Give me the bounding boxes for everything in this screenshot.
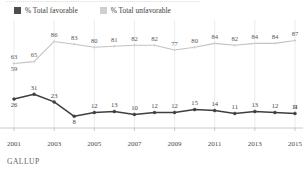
legend-item-favorable[interactable]: % Total favorable xyxy=(14,7,78,14)
data-label: 86 xyxy=(51,31,58,38)
data-label: 15 xyxy=(191,99,198,106)
data-label: 31 xyxy=(31,84,38,91)
data-point[interactable] xyxy=(173,49,175,51)
data-point[interactable] xyxy=(73,43,75,45)
x-axis-tick-label: 2007 xyxy=(127,140,141,148)
data-label: 12 xyxy=(151,102,158,109)
data-label-extra: 59 xyxy=(11,65,18,72)
data-label: 12 xyxy=(91,102,98,109)
x-axis-tick-label: 2005 xyxy=(87,140,101,148)
data-label: 84 xyxy=(211,33,218,40)
data-label: 84 xyxy=(272,33,279,40)
legend-item-unfavorable[interactable]: % Total unfavorable xyxy=(100,7,171,14)
data-label: 13 xyxy=(111,101,118,108)
chart-legend: % Total favorable % Total unfavorable xyxy=(14,7,171,14)
data-label-extra: 26 xyxy=(11,101,18,108)
legend-label-unfavorable: % Total unfavorable xyxy=(111,7,171,14)
data-point[interactable] xyxy=(153,44,155,46)
data-label: 80 xyxy=(91,37,98,44)
data-point[interactable] xyxy=(253,110,256,113)
data-label: 82 xyxy=(151,35,158,42)
data-point[interactable] xyxy=(133,44,135,46)
data-label: 13 xyxy=(252,101,259,108)
data-label: 63 xyxy=(11,53,18,60)
data-point[interactable] xyxy=(273,111,276,114)
x-axis-tick-label: 2011 xyxy=(208,140,222,148)
data-point[interactable] xyxy=(133,113,136,116)
data-label: 11 xyxy=(232,103,238,110)
x-axis-tick-label: 2003 xyxy=(47,140,61,148)
data-label: 10 xyxy=(131,104,138,111)
source-attribution: GALLUP xyxy=(7,157,40,166)
data-label: 81 xyxy=(111,36,118,43)
x-axis-tick-label: 2009 xyxy=(168,140,182,148)
data-label: 23 xyxy=(51,92,58,99)
data-label: 14 xyxy=(211,100,218,107)
data-point[interactable] xyxy=(214,42,216,44)
data-point[interactable] xyxy=(193,108,196,111)
data-point[interactable] xyxy=(294,112,297,115)
data-label: 82 xyxy=(231,35,238,42)
legend-swatch-favorable xyxy=(14,7,21,14)
data-point[interactable] xyxy=(33,93,36,96)
x-axis-tick-label: 2001 xyxy=(7,140,21,148)
data-point[interactable] xyxy=(113,45,115,47)
data-label: 83 xyxy=(71,34,78,41)
data-label-extra: 8 xyxy=(73,118,77,125)
data-label: 84 xyxy=(252,33,259,40)
data-label: 80 xyxy=(191,37,198,44)
data-point[interactable] xyxy=(113,110,116,113)
x-axis-tick-label: 2013 xyxy=(248,140,262,148)
data-point[interactable] xyxy=(173,111,176,114)
data-point[interactable] xyxy=(153,111,156,114)
line-chart-svg: 6365868380818282778084828484875931231213… xyxy=(0,20,303,138)
data-point[interactable] xyxy=(294,39,296,41)
legend-swatch-unfavorable xyxy=(100,7,107,14)
data-point[interactable] xyxy=(233,112,236,115)
x-axis-tick-label: 2015 xyxy=(288,140,302,148)
data-label: 65 xyxy=(31,51,38,58)
data-point[interactable] xyxy=(274,42,276,44)
data-point[interactable] xyxy=(254,42,256,44)
chart-plot-area: 6365868380818282778084828484875931231213… xyxy=(0,20,303,138)
data-point[interactable] xyxy=(93,111,96,114)
data-point[interactable] xyxy=(33,60,35,62)
data-point[interactable] xyxy=(53,40,55,42)
data-point[interactable] xyxy=(53,100,56,103)
data-point[interactable] xyxy=(193,46,195,48)
data-point[interactable] xyxy=(93,46,95,48)
data-point[interactable] xyxy=(213,109,216,112)
data-point[interactable] xyxy=(234,44,236,46)
x-axis-labels: 20012003200520072009201120132015 xyxy=(0,138,303,152)
clipped-headline-text: ………………………………………………………………………………… xyxy=(6,0,201,3)
data-label: 82 xyxy=(131,35,138,42)
data-label: 87 xyxy=(292,30,299,37)
data-label: 77 xyxy=(171,40,178,47)
legend-label-favorable: % Total favorable xyxy=(25,7,78,14)
data-label: 12 xyxy=(272,102,279,109)
data-label: 12 xyxy=(171,102,178,109)
